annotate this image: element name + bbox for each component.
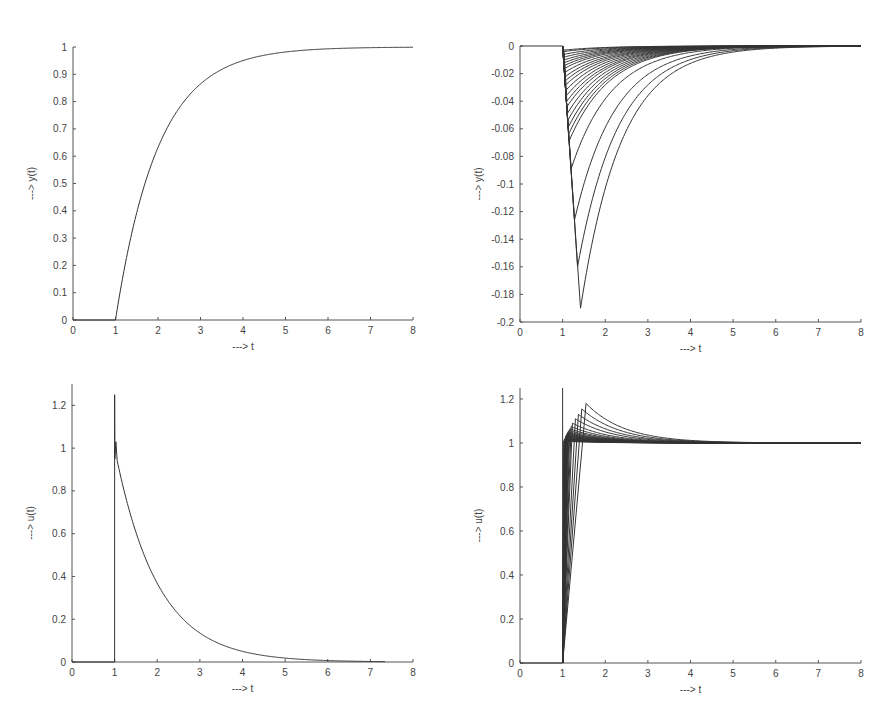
y-tick-label: 1 xyxy=(60,443,66,454)
x-tick-label: 8 xyxy=(410,667,416,678)
y-tick-label: -0.08 xyxy=(491,151,514,162)
subplot-bottom-left: 01234567800.20.40.60.811.2---> t---> u(t… xyxy=(25,384,416,694)
x-tick-label: 4 xyxy=(688,327,694,338)
subplot-top-left: 01234567800.10.20.30.40.50.60.70.80.91--… xyxy=(26,42,416,353)
x-tick-label: 8 xyxy=(858,327,864,338)
y-tick-label: -0.06 xyxy=(491,123,514,134)
u-family-curve xyxy=(563,414,861,663)
x-tick-label: 3 xyxy=(645,668,651,679)
x-tick-label: 0 xyxy=(70,325,76,336)
y-tick-label: 0.6 xyxy=(52,528,66,539)
y-tick-label: 0.8 xyxy=(53,96,67,107)
y-tick-label: 0.2 xyxy=(53,260,67,271)
u-family-curve xyxy=(563,441,861,663)
x-tick-label: 1 xyxy=(560,327,566,338)
y-family-curve xyxy=(563,46,861,134)
u-family-curve xyxy=(563,434,861,663)
u-family-curve xyxy=(563,430,861,663)
x-tick-label: 3 xyxy=(198,325,204,336)
x-axis-label: ---> t xyxy=(232,341,254,352)
figure-canvas: 01234567800.10.20.30.40.50.60.70.80.91--… xyxy=(0,0,896,728)
x-tick-label: 2 xyxy=(602,668,608,679)
y-tick-label: 0.9 xyxy=(53,69,67,80)
y-tick-label: 0.2 xyxy=(500,614,514,625)
x-axis-label: ---> t xyxy=(680,684,702,695)
x-tick-label: 6 xyxy=(325,667,331,678)
y-tick-label: 0.6 xyxy=(53,151,67,162)
x-tick-label: 2 xyxy=(154,667,160,678)
x-tick-label: 8 xyxy=(858,668,864,679)
y-family-curve xyxy=(563,46,861,308)
u-family-curve xyxy=(563,436,861,663)
y-axis-label: ---> u(t) xyxy=(25,506,36,540)
x-tick-label: 8 xyxy=(410,325,416,336)
x-tick-label: 2 xyxy=(602,327,608,338)
y-family-curve xyxy=(563,46,861,220)
u-family-curve xyxy=(563,409,861,663)
x-tick-label: 0 xyxy=(517,327,523,338)
x-tick-label: 2 xyxy=(155,325,161,336)
x-tick-label: 1 xyxy=(113,325,119,336)
u-family-curve xyxy=(563,439,861,663)
y-tick-label: 0.8 xyxy=(52,485,66,496)
u-family-curve xyxy=(563,438,861,664)
y-tick-label: 0.4 xyxy=(53,205,67,216)
u-family-curve xyxy=(563,427,861,664)
x-tick-label: 7 xyxy=(368,325,374,336)
u-family-curve xyxy=(563,432,861,663)
x-tick-label: 5 xyxy=(730,668,736,679)
y-axis-label: ---> y(t) xyxy=(473,167,484,200)
y-tick-label: 0.6 xyxy=(500,526,514,537)
u-control-curve xyxy=(115,395,385,662)
y-tick-label: 1.2 xyxy=(500,394,514,405)
u-family-curve xyxy=(563,440,861,663)
x-tick-label: 0 xyxy=(69,667,75,678)
x-tick-label: 4 xyxy=(688,668,694,679)
x-tick-label: 1 xyxy=(112,667,118,678)
y-family-curve xyxy=(563,46,861,267)
x-tick-label: 6 xyxy=(773,327,779,338)
y-tick-label: 0.8 xyxy=(500,482,514,493)
x-tick-label: 3 xyxy=(197,667,203,678)
u-family-curve xyxy=(563,439,861,663)
x-tick-label: 6 xyxy=(325,325,331,336)
y-axis-label: ---> y(t) xyxy=(26,167,37,200)
x-axis-label: ---> t xyxy=(232,683,254,694)
x-tick-label: 4 xyxy=(240,667,246,678)
u-family-curve xyxy=(563,438,861,663)
x-tick-label: 7 xyxy=(816,668,822,679)
u-family-curve xyxy=(563,423,861,663)
u-family-curve xyxy=(563,439,861,663)
y-tick-label: 0.7 xyxy=(53,123,67,134)
y-response-curve xyxy=(73,47,413,320)
y-tick-label: 1.2 xyxy=(52,400,66,411)
y-tick-label: -0.1 xyxy=(497,179,515,190)
y-tick-label: 0 xyxy=(508,41,514,52)
y-tick-label: -0.14 xyxy=(491,234,514,245)
u-family-curve xyxy=(563,440,861,663)
u-family-curve xyxy=(563,435,861,663)
y-tick-label: 0 xyxy=(60,657,66,668)
y-axis-label: ---> u(t) xyxy=(473,509,484,543)
x-tick-label: 0 xyxy=(517,668,523,679)
y-tick-label: -0.2 xyxy=(497,317,515,328)
y-tick-label: 1 xyxy=(508,438,514,449)
x-tick-label: 4 xyxy=(240,325,246,336)
y-tick-label: 0 xyxy=(61,315,67,326)
y-tick-label: -0.02 xyxy=(491,68,514,79)
x-tick-label: 1 xyxy=(560,668,566,679)
y-tick-label: 0.4 xyxy=(500,570,514,581)
y-tick-label: 0 xyxy=(508,658,514,669)
u-family-curve xyxy=(563,419,861,663)
y-tick-label: 0.2 xyxy=(52,614,66,625)
u-family-curve xyxy=(563,437,861,663)
x-tick-label: 5 xyxy=(730,327,736,338)
y-tick-label: -0.12 xyxy=(491,206,514,217)
subplot-top-right: 012345678-0.2-0.18-0.16-0.14-0.12-0.1-0.… xyxy=(473,41,864,355)
x-tick-label: 7 xyxy=(368,667,374,678)
subplot-bottom-right: 01234567800.20.40.60.811.2---> t---> u(t… xyxy=(473,388,864,695)
u-family-curve xyxy=(563,436,861,663)
y-tick-label: 0.3 xyxy=(53,233,67,244)
x-tick-label: 5 xyxy=(282,667,288,678)
y-tick-label: -0.16 xyxy=(491,261,514,272)
